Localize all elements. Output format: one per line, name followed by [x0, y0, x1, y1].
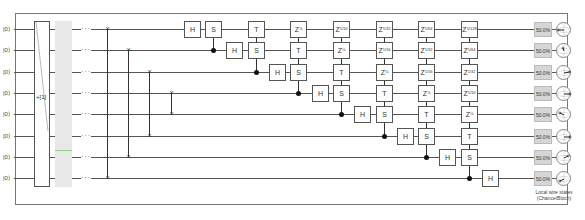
- gate-s[interactable]: S: [461, 149, 478, 166]
- input-amplitude-block[interactable]: +[1]: [34, 21, 50, 187]
- input-state-label[interactable]: |0⟩: [3, 174, 17, 181]
- gate-z-power[interactable]: Z⅛: [418, 85, 435, 102]
- control-dot[interactable]: [254, 70, 259, 75]
- gate-label: H: [360, 111, 365, 118]
- wire-ellipsis: ···: [81, 110, 91, 117]
- gate-label: S: [382, 111, 387, 118]
- gate-label: S: [424, 133, 429, 140]
- gate-h[interactable]: H: [482, 170, 499, 187]
- chance-display: 50.0%: [534, 65, 552, 80]
- wire-4: [14, 114, 532, 115]
- gate-exponent: 1/16: [383, 47, 391, 52]
- gate-label: S: [467, 154, 472, 161]
- gate-exponent: ⅛: [427, 90, 430, 95]
- display-marker: [55, 150, 72, 151]
- gate-label: T: [339, 69, 343, 76]
- gate-z-power[interactable]: Z1/32: [461, 64, 478, 81]
- input-state-label[interactable]: |0⟩: [3, 132, 17, 139]
- gate-t[interactable]: T: [418, 106, 435, 123]
- chance-display: 50.0%: [534, 150, 552, 165]
- swap-connector: [107, 29, 108, 178]
- control-dot[interactable]: [467, 176, 472, 181]
- gate-z-power[interactable]: Z⅛: [461, 106, 478, 123]
- gate-s[interactable]: S: [376, 106, 393, 123]
- gate-h[interactable]: H: [226, 42, 243, 59]
- bloch-sphere-icon: [556, 129, 571, 144]
- gate-label: T: [254, 26, 258, 33]
- control-dot[interactable]: [211, 48, 216, 53]
- bloch-sphere-icon: [556, 150, 571, 165]
- gate-h[interactable]: H: [269, 64, 286, 81]
- gate-z-power[interactable]: Z1/128: [461, 21, 478, 38]
- gate-exponent: 1/64: [425, 26, 433, 31]
- gate-t[interactable]: T: [248, 21, 265, 38]
- gate-z-power[interactable]: Z1/32: [418, 42, 435, 59]
- gate-z-power[interactable]: Z⅛: [376, 64, 393, 81]
- swap-icon[interactable]: ×: [168, 110, 175, 117]
- chance-display: 50.0%: [534, 86, 552, 101]
- gate-s[interactable]: S: [290, 64, 307, 81]
- gate-t[interactable]: T: [290, 42, 307, 59]
- gate-label: H: [232, 47, 237, 54]
- gate-z-power[interactable]: Z1/64: [418, 21, 435, 38]
- gate-t[interactable]: T: [376, 85, 393, 102]
- control-dot[interactable]: [339, 112, 344, 117]
- gate-z-power[interactable]: Z1/64: [461, 42, 478, 59]
- gate-s[interactable]: S: [205, 21, 222, 38]
- gate-z-power[interactable]: Z1/16: [461, 85, 478, 102]
- input-block-label: +[1]: [36, 94, 46, 100]
- input-state-label[interactable]: |0⟩: [3, 68, 17, 75]
- bloch-sphere-icon: [556, 65, 571, 80]
- gate-label: S: [211, 26, 216, 33]
- bloch-sphere-icon: [556, 107, 571, 122]
- control-dot[interactable]: [382, 134, 387, 139]
- control-dot[interactable]: [296, 91, 301, 96]
- wire-ellipsis: ···: [81, 132, 91, 139]
- gate-h[interactable]: H: [397, 128, 414, 145]
- gate-h[interactable]: H: [184, 21, 201, 38]
- gate-z-power[interactable]: Z1/32: [376, 21, 393, 38]
- gate-exponent: 1/16: [340, 26, 348, 31]
- gate-label: T: [296, 47, 300, 54]
- gate-h[interactable]: H: [439, 149, 456, 166]
- swap-icon[interactable]: ×: [125, 153, 132, 160]
- input-state-label[interactable]: |0⟩: [3, 46, 17, 53]
- wire-3: [14, 93, 532, 94]
- gate-z-power[interactable]: Z1/16: [418, 64, 435, 81]
- swap-connector: [128, 50, 129, 157]
- swap-icon[interactable]: ×: [146, 132, 153, 139]
- gate-label: S: [296, 69, 301, 76]
- gate-z-power[interactable]: Z⅛: [290, 21, 307, 38]
- input-state-label[interactable]: |0⟩: [3, 89, 17, 96]
- amplitude-display-block[interactable]: [55, 21, 72, 187]
- gate-s[interactable]: S: [248, 42, 265, 59]
- control-dot[interactable]: [424, 155, 429, 160]
- gate-z-power[interactable]: Z⅛: [333, 42, 350, 59]
- wire-7: [14, 178, 532, 179]
- circuit-editor: |0⟩|0⟩|0⟩|0⟩|0⟩|0⟩|0⟩|0⟩ +[1] ··········…: [0, 0, 585, 220]
- gate-t[interactable]: T: [333, 64, 350, 81]
- gate-s[interactable]: S: [333, 85, 350, 102]
- gate-label: H: [403, 133, 408, 140]
- caption-line-2: (Chance/Bloch): [524, 195, 584, 201]
- swap-icon[interactable]: ×: [125, 46, 132, 53]
- swap-icon[interactable]: ×: [104, 25, 111, 32]
- gate-h[interactable]: H: [354, 106, 371, 123]
- gate-t[interactable]: T: [461, 128, 478, 145]
- input-state-label[interactable]: |0⟩: [3, 153, 17, 160]
- gate-s[interactable]: S: [418, 128, 435, 145]
- gate-h[interactable]: H: [312, 85, 329, 102]
- gate-exponent: ⅛: [299, 26, 302, 31]
- swap-icon[interactable]: ×: [104, 174, 111, 181]
- gate-z-power[interactable]: Z1/16: [376, 42, 393, 59]
- input-state-label[interactable]: |0⟩: [3, 25, 17, 32]
- swap-icon[interactable]: ×: [146, 68, 153, 75]
- gate-z-power[interactable]: Z1/16: [333, 21, 350, 38]
- wire-ellipsis: ···: [81, 25, 91, 32]
- gate-label: H: [318, 90, 323, 97]
- input-state-label[interactable]: |0⟩: [3, 110, 17, 117]
- swap-icon[interactable]: ×: [168, 89, 175, 96]
- bloch-sphere-icon: [556, 86, 571, 101]
- gate-label: H: [275, 69, 280, 76]
- wire-ellipsis: ···: [81, 46, 91, 53]
